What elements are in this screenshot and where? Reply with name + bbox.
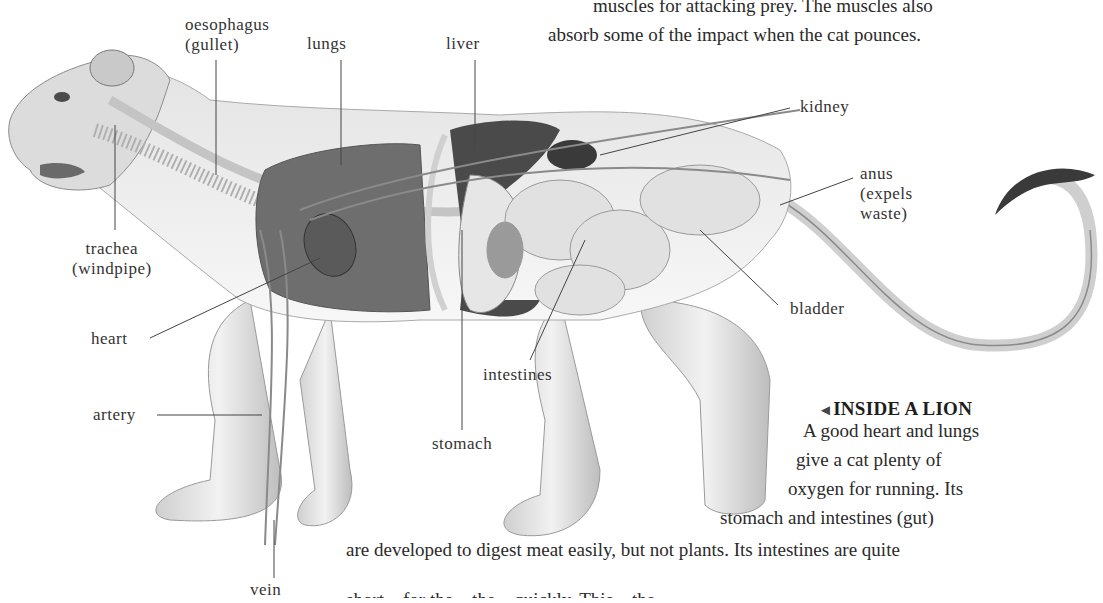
lion-anatomy-illustration bbox=[0, 0, 1103, 603]
label-intestines: intestines bbox=[483, 365, 552, 385]
label-anus: anus (expels waste) bbox=[860, 164, 913, 224]
label-lungs: lungs bbox=[307, 34, 346, 54]
label-bladder: bladder bbox=[790, 299, 844, 319]
caption-line-3: oxygen for running. Its bbox=[788, 474, 963, 503]
caption-line-4: stomach and intestines (gut) bbox=[720, 503, 934, 532]
caption-line-2: give a cat plenty of bbox=[796, 445, 942, 474]
caption-line-1: A good heart and lungs bbox=[803, 416, 979, 445]
intro-text-line-2: absorb some of the impact when the cat p… bbox=[548, 20, 921, 49]
label-stomach: stomach bbox=[432, 434, 492, 454]
intro-text-line-1: muscles for attacking prey. The muscles … bbox=[593, 0, 933, 20]
caption-line-5: are developed to digest meat easily, but… bbox=[346, 535, 900, 564]
label-oesophagus: oesophagus (gullet) bbox=[185, 15, 269, 55]
label-artery: artery bbox=[93, 405, 136, 425]
label-heart: heart bbox=[91, 329, 127, 349]
label-vein: vein bbox=[250, 580, 281, 600]
label-kidney: kidney bbox=[800, 97, 849, 117]
tail bbox=[780, 178, 1092, 346]
label-trachea: trachea (windpipe) bbox=[72, 239, 152, 279]
label-liver: liver bbox=[446, 34, 480, 54]
